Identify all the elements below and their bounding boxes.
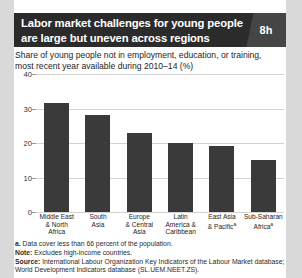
source-line: Source: International Labour Organizatio… xyxy=(15,258,285,275)
figure-title-bar: Labor market challenges for young people… xyxy=(14,13,286,47)
figure-title-line-1: Labor market challenges for young people xyxy=(21,16,243,31)
y-axis: 010203040 xyxy=(14,74,32,212)
bar-slot xyxy=(119,74,160,212)
figure-number-label: 8h xyxy=(246,13,286,47)
figure-title-line-2: are large but uneven across regions xyxy=(21,31,243,46)
footnote-line: a. Data cover less than 66 percent of th… xyxy=(15,240,285,248)
bar[interactable] xyxy=(44,103,69,212)
x-axis-category-label: East Asia& Pacifica xyxy=(201,213,242,236)
bar[interactable] xyxy=(85,115,110,212)
source-text: International Labour Organization Key In… xyxy=(15,258,284,273)
bar-series xyxy=(36,74,284,212)
bar-slot xyxy=(201,74,242,212)
bar[interactable] xyxy=(127,133,152,212)
x-axis-category-label: SouthAsia xyxy=(77,213,118,236)
figure-subtitle-line-2: most recent year available during 2010–1… xyxy=(15,61,283,72)
figure-title: Labor market challenges for young people… xyxy=(21,16,243,45)
bar-slot xyxy=(160,74,201,212)
bar-slot xyxy=(77,74,118,212)
y-axis-tick-label: 30 xyxy=(16,104,32,113)
footnote-text: Data cover less than 66 percent of the p… xyxy=(23,240,173,247)
category-footnote-marker: a xyxy=(233,221,236,227)
source-label: Source: xyxy=(15,258,40,265)
x-axis-category-labels: Middle East& NorthAfricaSouthAsiaEurope&… xyxy=(36,213,284,236)
footnote-marker: a. xyxy=(15,240,21,247)
note-label: Note: xyxy=(15,249,32,256)
y-axis-tick-label: 40 xyxy=(16,70,32,79)
x-axis-category-label: Sub-SaharanAfricaa xyxy=(243,213,284,236)
figure-footer: a. Data cover less than 66 percent of th… xyxy=(15,240,285,275)
bar[interactable] xyxy=(209,146,234,212)
bar-slot xyxy=(243,74,284,212)
category-footnote-marker: a xyxy=(270,221,273,227)
note-text: Excludes high-income countries. xyxy=(34,249,132,256)
x-axis-category-label: Europe& CentralAsia xyxy=(119,213,160,236)
figure-subtitle: Share of young people not in employment,… xyxy=(15,50,283,72)
bar-slot xyxy=(36,74,77,212)
x-axis-category-label: Middle East& NorthAfrica xyxy=(36,213,77,236)
figure-container: Labor market challenges for young people… xyxy=(14,0,286,278)
plot-area: 010203040 xyxy=(14,74,286,212)
y-axis-tick-label: 20 xyxy=(16,139,32,148)
note-line: Note: Excludes high-income countries. xyxy=(15,249,285,257)
x-axis-category-label: LatinAmerica &Caribbean xyxy=(160,213,201,236)
bar[interactable] xyxy=(168,143,193,212)
y-axis-tick-label: 10 xyxy=(16,173,32,182)
figure-subtitle-line-1: Share of young people not in employment,… xyxy=(15,50,283,61)
bar[interactable] xyxy=(251,160,276,212)
y-axis-tick-label: 0 xyxy=(16,208,32,217)
